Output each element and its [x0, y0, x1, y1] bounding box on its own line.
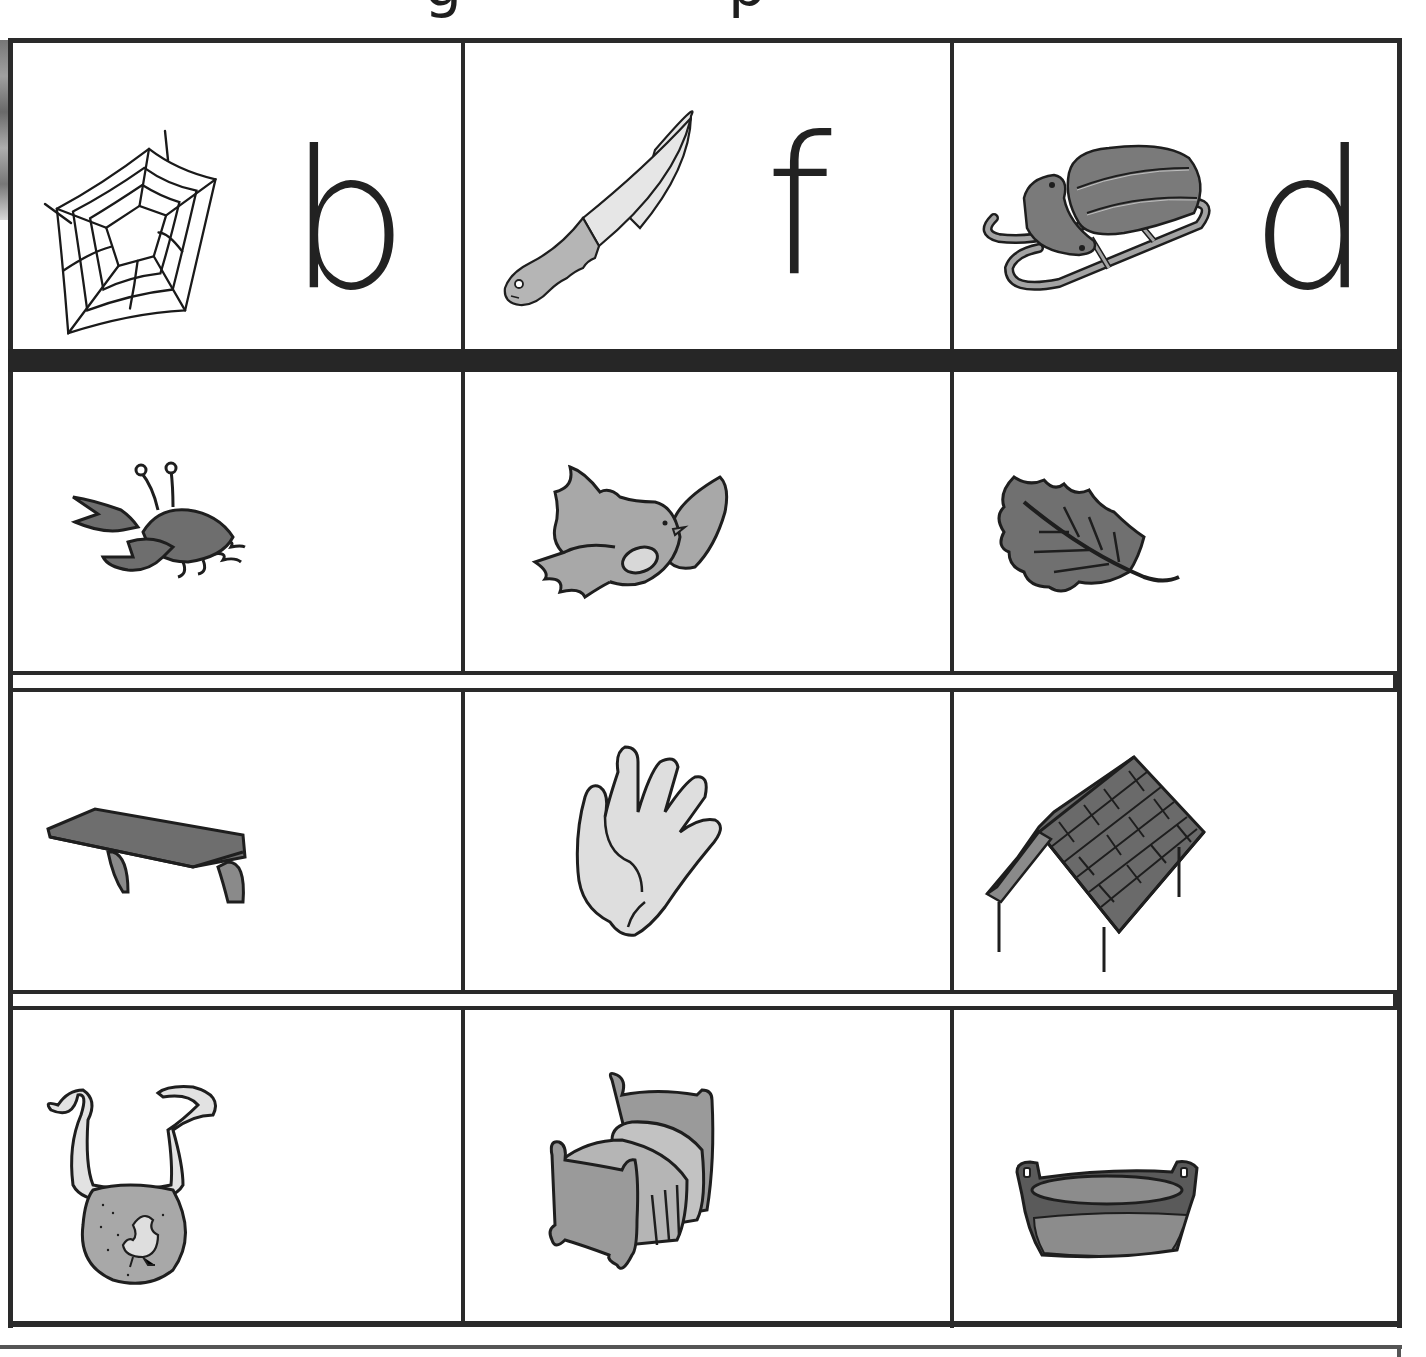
picture-cell-crab: [13, 372, 461, 671]
row-gap-3-right-cap: [1393, 990, 1402, 1010]
next-frame-top-border: [0, 1345, 1402, 1349]
leaf-icon: [994, 472, 1194, 602]
knife-icon: [495, 108, 695, 308]
shelf-icon: [48, 792, 248, 892]
bib-icon: [33, 1075, 223, 1275]
row-gap-2-right-cap: [1393, 671, 1402, 692]
picture-cell-bib: [13, 1010, 461, 1321]
picture-cell-bed: [465, 1010, 950, 1321]
bed-icon: [547, 1070, 727, 1290]
header-separator-bar: [8, 349, 1402, 372]
page-edge-shadow: [0, 40, 8, 220]
letter-d: d: [1250, 127, 1371, 317]
header-cell-web-b: b: [13, 43, 461, 349]
header-cell-sled-d: d: [954, 43, 1397, 349]
heading-fragment-p: p: [728, 0, 766, 14]
crab-icon: [63, 462, 263, 592]
row-gap-3-left-cap: [8, 990, 13, 1010]
picture-cell-tub: [954, 1010, 1397, 1321]
grid-bottom-border: [8, 1321, 1402, 1327]
row-gap-2: [13, 675, 1397, 688]
letter-b: b: [288, 127, 409, 317]
letter-f: f: [765, 113, 832, 303]
tub-icon: [1012, 1160, 1212, 1270]
picture-cell-leaf: [954, 372, 1397, 671]
picture-cell-shelf: [13, 692, 461, 990]
next-frame-right-border: [1397, 1345, 1401, 1357]
picture-cell-roof: [954, 692, 1397, 990]
sled-icon: [979, 143, 1209, 303]
picture-cell-bird: [465, 372, 950, 671]
spider-web-icon: [28, 98, 228, 308]
bird-icon: [525, 457, 735, 612]
hand-icon: [570, 742, 750, 952]
picture-cell-hand: [465, 692, 950, 990]
row-gap-3: [13, 994, 1397, 1006]
row-gap-2-left-cap: [8, 671, 13, 692]
heading-fragment-g: g: [424, 0, 462, 14]
roof-icon: [979, 747, 1219, 947]
header-cell-knife-f: f: [465, 43, 950, 349]
